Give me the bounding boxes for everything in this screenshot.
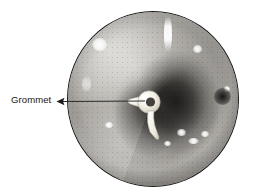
grommet-label: Grommet	[11, 94, 51, 106]
figure-otoscopic-grommet: Grommet	[0, 0, 254, 194]
leader-line	[62, 101, 145, 102]
